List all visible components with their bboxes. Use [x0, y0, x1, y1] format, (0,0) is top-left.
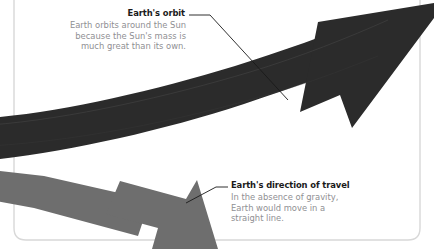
diagram-canvas: Earth's orbit Earth orbits around the Su…: [0, 0, 434, 249]
orbit-arrow-head: [300, 3, 434, 128]
direction-arrow-head: [106, 180, 218, 249]
direction-of-travel-arrow: [0, 170, 218, 249]
annotation-earths-orbit: Earth's orbit Earth orbits around the Su…: [14, 8, 186, 52]
annotation-body: In the absence of gravity, Earth would m…: [231, 192, 371, 224]
annotation-earths-direction-of-travel: Earth's direction of travel In the absen…: [231, 180, 371, 224]
annotation-body: Earth orbits around the Sun because the …: [14, 20, 186, 52]
annotation-heading: Earth's orbit: [14, 8, 186, 19]
annotation-heading: Earth's direction of travel: [231, 180, 371, 191]
